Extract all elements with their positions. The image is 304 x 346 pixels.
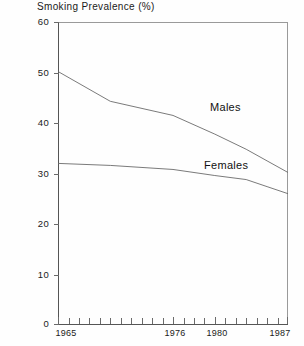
y-tick-label-50: 50 (38, 67, 49, 78)
series-label-females: Females (204, 159, 248, 171)
x-tick-label-1976: 1976 (165, 328, 186, 338)
y-tick-label-60: 60 (38, 16, 49, 27)
x-tick-label-1965: 1965 (56, 328, 77, 338)
y-tick-label-40: 40 (38, 117, 49, 128)
chart-page: Smoking Prevalence (%) 60 50 40 30 20 10… (0, 0, 304, 346)
y-tick-label-0: 0 (43, 318, 49, 329)
page-title: Smoking Prevalence (%) (37, 1, 155, 12)
plot-area: 60 50 40 30 20 10 0 (58, 22, 288, 325)
x-tick-label-1987: 1987 (270, 328, 291, 338)
y-tick-label-30: 30 (38, 168, 49, 179)
series-label-males: Males (210, 101, 241, 113)
line-series-females (58, 163, 288, 193)
y-tick-label-10: 10 (38, 269, 49, 280)
x-tick-label-1980: 1980 (207, 328, 228, 338)
y-tick-label-20: 20 (38, 218, 49, 229)
data-curves (58, 22, 288, 325)
line-series-males (58, 71, 288, 172)
